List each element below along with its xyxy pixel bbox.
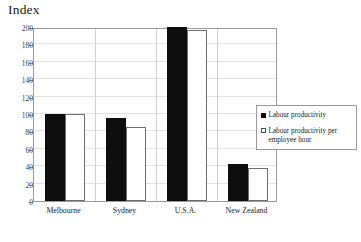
bar[interactable] bbox=[167, 27, 187, 201]
bar-group bbox=[167, 29, 207, 201]
y-axis-tick-label: 0 bbox=[9, 198, 33, 207]
legend-entry[interactable]: Labour productivity bbox=[261, 111, 352, 120]
plot-inner bbox=[34, 29, 276, 201]
bar-group bbox=[106, 29, 146, 201]
category-separator bbox=[217, 29, 218, 201]
bar[interactable] bbox=[106, 118, 126, 201]
chart-legend: Labour productivityLabour productivity p… bbox=[256, 105, 357, 150]
chart-title: Index bbox=[8, 2, 40, 18]
y-axis-tick-label: 180 bbox=[9, 41, 33, 50]
y-axis-tick-label: 140 bbox=[9, 76, 33, 85]
open-square-icon bbox=[261, 128, 266, 133]
bar[interactable] bbox=[65, 114, 85, 201]
y-axis-tick-label: 40 bbox=[9, 163, 33, 172]
y-axis-tick-label: 200 bbox=[9, 24, 33, 33]
y-axis-tick-label: 80 bbox=[9, 128, 33, 137]
bar[interactable] bbox=[45, 114, 65, 201]
bar-group bbox=[45, 29, 85, 201]
y-axis-tick-label: 120 bbox=[9, 93, 33, 102]
legend-label: Labour productivity bbox=[269, 111, 353, 120]
x-axis-tick-label: New Zealand bbox=[226, 206, 268, 215]
bar[interactable] bbox=[187, 30, 207, 201]
chart-figure: Index 020406080100120140160180200 Melbou… bbox=[0, 0, 361, 242]
x-axis-tick-label: Sydney bbox=[113, 206, 136, 215]
category-separator bbox=[95, 29, 96, 201]
y-axis-tick-label: 60 bbox=[9, 145, 33, 154]
y-axis-tick-label: 160 bbox=[9, 58, 33, 67]
plot-area bbox=[33, 28, 277, 202]
bar[interactable] bbox=[228, 164, 248, 201]
legend-label: Labour productivity per employee hour bbox=[269, 127, 353, 145]
bar[interactable] bbox=[126, 127, 146, 201]
legend-entry[interactable]: Labour productivity per employee hour bbox=[261, 127, 352, 145]
category-separator bbox=[156, 29, 157, 201]
x-axis-tick-label: U.S.A. bbox=[175, 206, 196, 215]
x-axis-tick-label: Melbourne bbox=[46, 206, 80, 215]
y-axis-tick-label: 100 bbox=[9, 111, 33, 120]
bar[interactable] bbox=[248, 168, 268, 201]
filled-square-icon bbox=[261, 113, 266, 118]
y-axis-tick-label: 20 bbox=[9, 180, 33, 189]
